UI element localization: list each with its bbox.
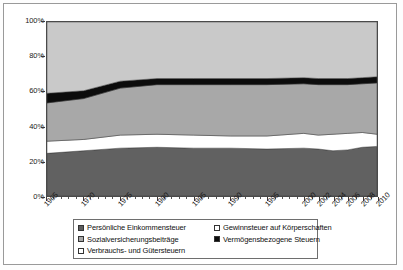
y-axis-tick-label: 80% xyxy=(6,52,44,60)
y-axis-tick-mark xyxy=(41,91,45,92)
y-axis-tick-label: 20% xyxy=(6,158,44,166)
x-axis-minor-tick xyxy=(171,197,172,199)
legend-swatch-icon xyxy=(78,225,84,231)
y-axis: 0%20%40%60%80%100% xyxy=(0,0,44,198)
x-axis-minor-tick xyxy=(98,197,99,199)
legend-swatch-icon xyxy=(214,225,220,231)
plot-area xyxy=(46,21,378,197)
y-axis-tick-label: 100% xyxy=(6,17,44,25)
legend-item-label: Gewinnsteuer auf Körperschaften xyxy=(223,223,332,232)
x-axis-minor-tick xyxy=(135,197,136,199)
legend-column-left: Persönliche Einkommensteuer Sozialversic… xyxy=(78,222,212,257)
legend-item-gewinnsteuer-auf-koerperschaften: Gewinnsteuer auf Körperschaften xyxy=(214,222,318,234)
y-axis-tick-label: 40% xyxy=(6,123,44,131)
y-axis-tick-mark xyxy=(41,127,45,128)
x-axis-minor-tick xyxy=(105,197,106,199)
plot-wrapper xyxy=(46,21,378,197)
legend-item-label: Vermögensbezogene Steuern xyxy=(223,235,320,244)
legend-item-vermoegensbezogene-steuern: Vermögensbezogene Steuern xyxy=(214,234,318,246)
area-band xyxy=(47,146,377,196)
x-axis-minor-tick xyxy=(245,197,246,199)
legend-item-label: Sozialversicherungsbeiträge xyxy=(87,235,179,244)
x-axis-minor-tick xyxy=(186,197,187,199)
legend-item-persoenliche-einkommensteuer: Persönliche Einkommensteuer xyxy=(78,222,212,234)
y-axis-tick-label: 60% xyxy=(6,87,44,95)
x-axis-minor-tick xyxy=(223,197,224,199)
x-axis-minor-tick xyxy=(297,197,298,199)
x-axis-minor-tick xyxy=(179,197,180,199)
legend-swatch-icon xyxy=(78,236,84,242)
x-axis-minor-tick xyxy=(282,197,283,199)
legend-item-label: Verbrauchs- und Gütersteuern xyxy=(87,246,185,255)
x-axis-minor-tick xyxy=(208,197,209,199)
legend-item-label: Persönliche Einkommensteuer xyxy=(87,223,186,232)
legend-swatch-icon xyxy=(214,236,220,242)
y-axis-tick-mark xyxy=(41,162,45,163)
x-axis-minor-tick xyxy=(76,197,77,199)
legend-item-verbrauchs-und-guetersteuern: Verbrauchs- und Gütersteuern xyxy=(78,245,212,257)
x-axis-minor-tick xyxy=(112,197,113,199)
y-axis-tick-mark xyxy=(41,21,45,22)
legend-item-sozialversicherungsbeitraege: Sozialversicherungsbeiträge xyxy=(78,234,212,246)
x-axis-minor-tick xyxy=(61,197,62,199)
stacked-area-svg xyxy=(47,22,377,196)
x-axis-minor-tick xyxy=(253,197,254,199)
x-axis-minor-tick xyxy=(260,197,261,199)
x-axis-minor-tick xyxy=(216,197,217,199)
chart-figure: 0%20%40%60%80%100% 196519701975198019851… xyxy=(0,0,403,270)
x-axis-minor-tick xyxy=(68,197,69,199)
x-axis-minor-tick xyxy=(149,197,150,199)
y-axis-tick-mark xyxy=(41,56,45,57)
y-axis-tick-label: 0% xyxy=(6,193,44,201)
chart-legend: Persönliche Einkommensteuer Sozialversic… xyxy=(73,219,318,259)
x-axis-minor-tick xyxy=(289,197,290,199)
x-axis-minor-tick xyxy=(142,197,143,199)
legend-swatch-icon xyxy=(78,248,84,254)
legend-column-right: Gewinnsteuer auf Körperschaften Vermögen… xyxy=(214,222,318,245)
